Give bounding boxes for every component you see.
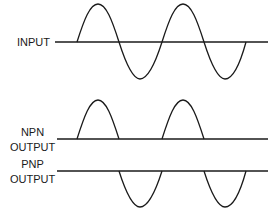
npn-output-label: NPN OUTPUT (10, 126, 55, 154)
input-label: INPUT (17, 36, 50, 49)
npn-label-line1: NPN (10, 126, 55, 139)
pnp-output-label: PNP OUTPUT (10, 158, 55, 186)
npn-output-wave (77, 100, 204, 139)
pnp-output-wave (119, 171, 246, 207)
pnp-label-line2: OUTPUT (10, 173, 55, 186)
npn-label-line2: OUTPUT (10, 141, 55, 154)
pnp-label-line1: PNP (10, 158, 55, 171)
waveform-diagram: INPUT NPN OUTPUT PNP OUTPUT (0, 0, 279, 212)
